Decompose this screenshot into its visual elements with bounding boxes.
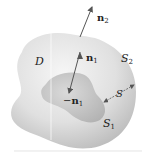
label-n2: n2: [97, 12, 109, 25]
surfaces-diagram: D n2 n1 −n1 S2 S1 S: [0, 0, 154, 158]
normal-n2-arrow: [80, 7, 92, 37]
label-region-d: D: [34, 55, 44, 68]
label-s2: S2: [121, 52, 133, 66]
label-s-gap: S: [116, 88, 123, 99]
